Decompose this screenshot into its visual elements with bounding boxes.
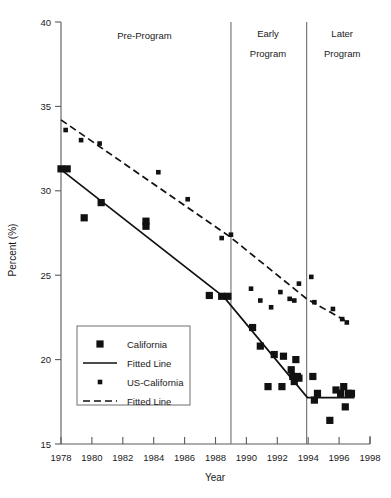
data-point	[287, 297, 292, 302]
data-point	[309, 373, 316, 380]
data-point	[219, 236, 224, 241]
x-tick-label: 1986	[174, 452, 195, 463]
y-axis-ticks: 152025303540	[40, 17, 61, 450]
data-point	[292, 298, 297, 303]
legend-marker-small-square	[98, 380, 103, 385]
data-point	[288, 366, 295, 373]
data-point	[271, 351, 278, 358]
period-label: Later	[331, 28, 353, 39]
data-point	[224, 293, 231, 300]
y-axis-title: Percent (%)	[7, 224, 18, 277]
y-tick-label: 15	[40, 439, 51, 450]
data-point	[295, 375, 302, 382]
data-point	[64, 165, 71, 172]
data-point	[342, 403, 349, 410]
y-tick-label: 30	[40, 185, 51, 196]
data-point	[278, 290, 283, 295]
data-point	[185, 197, 190, 202]
data-point	[280, 353, 287, 360]
data-point	[326, 417, 333, 424]
data-point	[312, 300, 317, 305]
x-tick-label: 1980	[81, 452, 102, 463]
data-point	[309, 275, 314, 280]
period-annotations: Pre-ProgramEarlyProgramLaterProgram	[117, 28, 360, 59]
scatter-plot: 152025303540 197819801982198419861988199…	[0, 0, 391, 498]
data-point	[278, 383, 285, 390]
data-point	[345, 320, 350, 325]
x-axis-title: Year	[205, 472, 226, 483]
data-point	[337, 390, 344, 397]
data-point	[311, 397, 318, 404]
data-point	[269, 305, 274, 310]
data-point	[57, 165, 64, 172]
data-point	[314, 390, 321, 397]
data-point	[258, 298, 263, 303]
x-tick-label: 1982	[112, 452, 133, 463]
x-tick-label: 1978	[50, 452, 71, 463]
x-tick-label: 1988	[205, 452, 226, 463]
data-point	[229, 232, 234, 237]
x-tick-label: 1994	[298, 452, 319, 463]
data-point	[292, 356, 299, 363]
x-tick-label: 1990	[236, 452, 257, 463]
data-point	[264, 383, 271, 390]
x-axis-ticks: 1978198019821984198619881990199219941996…	[50, 437, 380, 463]
legend-label: US-California	[127, 377, 184, 388]
data-point	[97, 141, 102, 146]
data-point	[63, 128, 68, 133]
data-point	[249, 324, 256, 331]
data-point	[348, 390, 355, 397]
chart-figure: 152025303540 197819801982198419861988199…	[0, 0, 391, 498]
fitted-line-dashed	[61, 120, 348, 323]
legend-label: Fitted Line	[127, 358, 171, 369]
data-point	[142, 218, 149, 225]
data-point	[340, 317, 345, 322]
y-tick-label: 40	[40, 17, 51, 28]
legend-label: California	[127, 339, 168, 350]
data-point	[79, 138, 84, 143]
data-point	[98, 199, 105, 206]
data-point	[331, 307, 336, 312]
data-point	[297, 281, 302, 286]
period-label: Program	[324, 48, 361, 59]
period-label: Pre-Program	[117, 30, 171, 41]
legend-label: Fitted Line	[127, 396, 171, 407]
period-label: Program	[250, 48, 287, 59]
period-label: Early	[257, 28, 279, 39]
data-point	[156, 170, 161, 175]
data-point	[257, 343, 264, 350]
data-point	[81, 214, 88, 221]
x-tick-label: 1996	[329, 452, 350, 463]
data-point	[206, 292, 213, 299]
x-tick-label: 1984	[143, 452, 164, 463]
x-tick-label: 1998	[359, 452, 380, 463]
y-tick-label: 35	[40, 101, 51, 112]
data-point	[218, 293, 225, 300]
y-tick-label: 20	[40, 354, 51, 365]
chart-legend: CaliforniaFitted LineUS-CaliforniaFitted…	[77, 326, 190, 407]
data-point	[249, 286, 254, 291]
y-tick-label: 25	[40, 270, 51, 281]
x-tick-label: 1992	[267, 452, 288, 463]
data-point	[340, 383, 347, 390]
legend-marker-large-square	[96, 340, 103, 347]
